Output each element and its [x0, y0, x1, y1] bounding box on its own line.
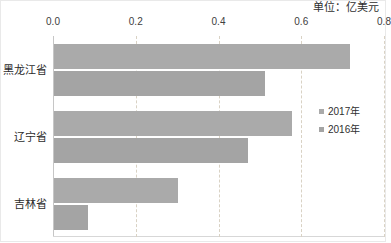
x-axis-tick-labels: 0.00.20.40.60.8	[0, 16, 387, 30]
legend-item[interactable]: 2016年	[319, 122, 381, 137]
category-label: 吉林省	[14, 197, 47, 210]
x-tick-label: 0.0	[46, 16, 60, 28]
bar	[54, 138, 248, 163]
bar	[54, 178, 178, 203]
legend-swatch-icon	[319, 127, 324, 132]
legend-swatch-icon	[319, 109, 324, 114]
x-tick-label: 0.2	[129, 16, 143, 28]
legend-label: 2016年	[328, 124, 360, 136]
unit-label: 单位：亿美元	[313, 1, 379, 14]
x-tick-label: 0.6	[294, 16, 308, 28]
chart-legend: 2017年2016年	[319, 104, 381, 140]
legend-item[interactable]: 2017年	[319, 104, 381, 119]
bar	[54, 111, 292, 136]
category-axis-labels: 黑龙江省辽宁省吉林省	[0, 36, 53, 237]
legend-label: 2017年	[328, 106, 360, 118]
category-label: 黑龙江省	[3, 63, 47, 76]
x-tick-label: 0.8	[377, 16, 391, 28]
x-tick-label: 0.4	[212, 16, 226, 28]
bar	[54, 44, 350, 69]
bar	[54, 71, 265, 96]
bar	[54, 205, 88, 230]
gridline	[384, 36, 385, 237]
category-label: 辽宁省	[14, 130, 47, 143]
